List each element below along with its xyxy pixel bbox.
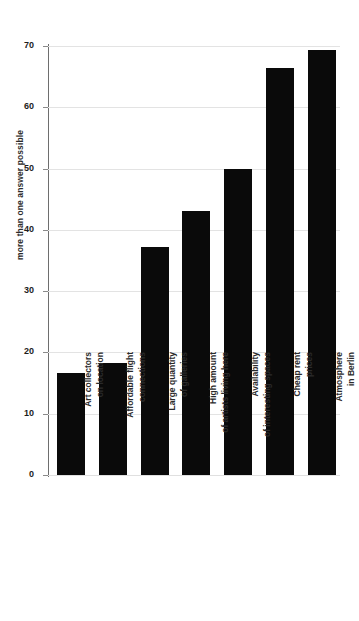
x-axis-label-line2: of galleries xyxy=(178,352,190,482)
x-axis-label: Art collectorson location xyxy=(83,352,111,482)
y-axis-title: more than one answer possible xyxy=(15,115,25,275)
x-axis-label: Availabilityof interesting spaces xyxy=(250,352,278,482)
y-tick-label-70: 70 xyxy=(0,41,34,50)
y-tick-mark-40 xyxy=(43,230,48,231)
x-axis-label: Affordable flightconnections xyxy=(125,352,153,482)
bar xyxy=(57,373,85,475)
x-axis-label-line2: connections xyxy=(136,352,148,482)
y-tick-mark-60 xyxy=(43,107,48,108)
y-tick-mark-30 xyxy=(43,291,48,292)
x-axis-label-line1: Availability xyxy=(250,352,262,482)
x-axis-label-line2: of artists living here xyxy=(220,352,232,482)
x-axis-label-line1: Atmosphere xyxy=(334,352,346,482)
y-tick-label-60: 60 xyxy=(0,102,34,111)
x-axis-label: Large quantityof galleries xyxy=(167,352,195,482)
y-tick-label-50: 50 xyxy=(0,164,34,173)
y-tick-mark-10 xyxy=(43,414,48,415)
y-tick-mark-20 xyxy=(43,352,48,353)
x-axis-label-line2: prices xyxy=(304,352,316,482)
x-axis-label-line2: of interesting spaces xyxy=(262,352,274,482)
y-tick-label-40: 40 xyxy=(0,225,34,234)
x-axis-label: High amountof artists living here xyxy=(208,352,236,482)
x-axis-label-line1: Large quantity xyxy=(167,352,179,482)
y-tick-mark-50 xyxy=(43,169,48,170)
x-axis-label-line1: Affordable flight xyxy=(125,352,137,482)
y-tick-label-20: 20 xyxy=(0,347,34,356)
y-tick-mark-0 xyxy=(43,475,48,476)
y-tick-mark-70 xyxy=(43,46,48,47)
gridline-70 xyxy=(48,46,340,47)
y-tick-label-0: 0 xyxy=(0,470,34,479)
x-axis-label-line1: High amount xyxy=(208,352,220,482)
gridline-60 xyxy=(48,107,340,108)
x-axis-label-line1: Cheap rent xyxy=(292,352,304,482)
x-axis-label-line1: Art collectors xyxy=(83,352,95,482)
y-tick-label-30: 30 xyxy=(0,286,34,295)
gridline-50 xyxy=(48,169,340,170)
y-tick-label-10: 10 xyxy=(0,409,34,418)
x-axis-label: Atmospherein Berlin xyxy=(334,352,359,482)
x-axis-label: Cheap rentprices xyxy=(292,352,320,482)
x-axis-label-line2: on location xyxy=(95,352,107,482)
x-axis-label-line2: in Berlin xyxy=(345,352,357,482)
